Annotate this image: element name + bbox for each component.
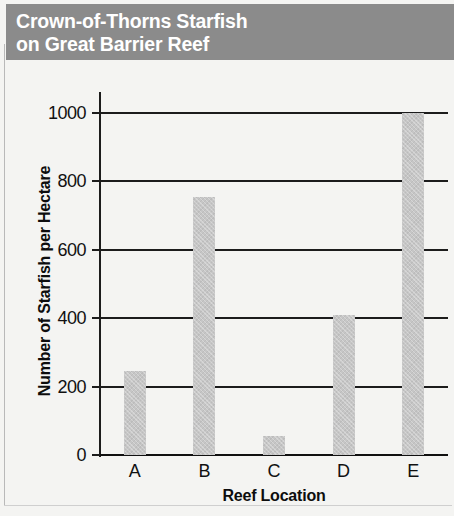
x-tick-label-E: E <box>393 461 433 482</box>
bar-B <box>193 197 215 455</box>
gridline-400 <box>100 317 448 319</box>
bar-C <box>263 436 285 455</box>
y-tick-mark-400 <box>92 317 100 319</box>
x-tick-label-B: B <box>184 461 224 482</box>
y-tick-mark-200 <box>92 386 100 388</box>
gridline-800 <box>100 180 448 182</box>
gridline-1000 <box>100 112 448 114</box>
chart-figure: Crown-of-Thorns Starfish on Great Barrie… <box>0 0 454 516</box>
plot-area: 02004006008001000 ABCDE Reef Location Nu… <box>0 0 454 516</box>
y-tick-mark-0 <box>92 454 100 456</box>
x-tick-label-A: A <box>115 461 155 482</box>
y-tick-mark-800 <box>92 180 100 182</box>
y-tick-mark-600 <box>92 249 100 251</box>
y-tick-label-0: 0 <box>6 445 86 466</box>
y-axis-title: Number of Starfish per Hectare <box>36 116 54 446</box>
x-axis-title: Reef Location <box>100 487 448 505</box>
bar-A <box>124 371 146 455</box>
y-axis-line <box>99 92 101 457</box>
bar-E <box>402 113 424 455</box>
x-tick-label-C: C <box>254 461 294 482</box>
gridline-600 <box>100 249 448 251</box>
gridline-200 <box>100 386 448 388</box>
bar-D <box>333 315 355 455</box>
y-tick-mark-1000 <box>92 112 100 114</box>
x-tick-label-D: D <box>324 461 364 482</box>
